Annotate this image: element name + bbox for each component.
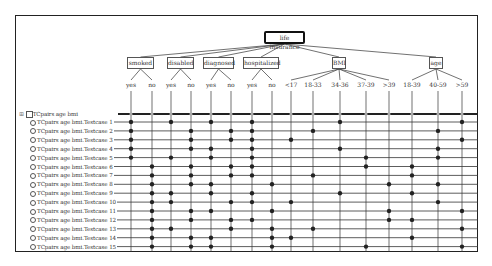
header-class-marker[interactable]: [436, 112, 439, 115]
test-case-mark[interactable]: [250, 218, 254, 222]
test-case-row[interactable]: TCpairs age bmi.Testcase 8: [30, 180, 114, 188]
test-case-mark[interactable]: [129, 120, 133, 124]
header-class-marker[interactable]: [169, 112, 172, 115]
class-age-2[interactable]: >59: [452, 81, 472, 89]
test-case-mark[interactable]: [250, 164, 254, 168]
test-case-mark[interactable]: [289, 200, 293, 204]
header-class-marker[interactable]: [387, 112, 390, 115]
class-bmi-1[interactable]: 18-33: [303, 81, 323, 89]
test-case-mark[interactable]: [311, 129, 315, 133]
header-class-marker[interactable]: [270, 112, 273, 115]
test-case-mark[interactable]: [289, 236, 293, 240]
radio-circle-icon[interactable]: [30, 217, 36, 223]
test-case-mark[interactable]: [229, 138, 233, 142]
test-case-mark[interactable]: [436, 129, 440, 133]
test-case-row[interactable]: TCpairs age bmi.Testcase 2: [30, 127, 114, 135]
header-class-marker[interactable]: [250, 112, 253, 115]
test-case-mark[interactable]: [169, 191, 173, 195]
test-case-mark[interactable]: [250, 155, 254, 159]
class-hospitalized-0[interactable]: yes: [242, 81, 262, 89]
test-case-mark[interactable]: [436, 155, 440, 159]
test-case-mark[interactable]: [311, 173, 315, 177]
test-case-mark[interactable]: [150, 182, 154, 186]
test-case-mark[interactable]: [189, 147, 193, 151]
test-case-mark[interactable]: [209, 244, 213, 248]
test-case-mark[interactable]: [229, 227, 233, 231]
radio-circle-icon[interactable]: [30, 244, 36, 250]
test-case-mark[interactable]: [364, 244, 368, 248]
classification-disabled[interactable]: disabled: [167, 57, 194, 69]
classification-diagnosed[interactable]: diagnosed: [203, 57, 234, 69]
test-case-mark[interactable]: [229, 200, 233, 204]
class-bmi-0[interactable]: <17: [281, 81, 301, 89]
class-hospitalized-1[interactable]: no: [262, 81, 282, 89]
test-case-row[interactable]: TCpairs age bmi.Testcase 13: [30, 225, 117, 233]
test-case-mark[interactable]: [150, 191, 154, 195]
class-diagnosed-0[interactable]: yes: [201, 81, 221, 89]
test-case-mark[interactable]: [169, 120, 173, 124]
test-case-row[interactable]: TCpairs age bmi.Testcase 7: [30, 171, 114, 179]
class-diagnosed-1[interactable]: no: [221, 81, 241, 89]
test-case-row[interactable]: TCpairs age bmi.Testcase 4: [30, 145, 114, 153]
test-case-mark[interactable]: [150, 209, 154, 213]
header-class-marker[interactable]: [229, 112, 232, 115]
test-case-mark[interactable]: [410, 191, 414, 195]
header-class-marker[interactable]: [364, 112, 367, 115]
test-case-mark[interactable]: [129, 138, 133, 142]
radio-circle-icon[interactable]: [30, 200, 36, 206]
radio-circle-icon[interactable]: [30, 226, 36, 232]
class-age-1[interactable]: 40-59: [428, 81, 448, 89]
test-case-row[interactable]: TCpairs age bmi.Testcase 9: [30, 189, 114, 197]
test-case-mark[interactable]: [189, 164, 193, 168]
test-case-mark[interactable]: [387, 218, 391, 222]
test-case-mark[interactable]: [270, 182, 274, 186]
class-smoked-0[interactable]: yes: [121, 81, 141, 89]
test-case-mark[interactable]: [460, 227, 464, 231]
test-case-mark[interactable]: [460, 138, 464, 142]
test-case-mark[interactable]: [289, 138, 293, 142]
test-case-mark[interactable]: [436, 182, 440, 186]
header-class-marker[interactable]: [311, 112, 314, 115]
test-case-mark[interactable]: [169, 200, 173, 204]
test-case-mark[interactable]: [189, 218, 193, 222]
radio-circle-icon[interactable]: [30, 128, 36, 134]
test-case-mark[interactable]: [189, 209, 193, 213]
header-class-marker[interactable]: [410, 112, 413, 115]
test-case-mark[interactable]: [338, 120, 342, 124]
radio-circle-icon[interactable]: [30, 191, 36, 197]
header-class-marker[interactable]: [338, 112, 341, 115]
test-case-mark[interactable]: [209, 147, 213, 151]
test-case-mark[interactable]: [410, 173, 414, 177]
radio-circle-icon[interactable]: [30, 164, 36, 170]
test-case-mark[interactable]: [189, 173, 193, 177]
test-case-mark[interactable]: [436, 200, 440, 204]
classification-age[interactable]: age: [429, 57, 443, 69]
radio-circle-icon[interactable]: [30, 146, 36, 152]
test-case-mark[interactable]: [460, 120, 464, 124]
test-case-mark[interactable]: [209, 209, 213, 213]
test-case-mark[interactable]: [209, 182, 213, 186]
test-case-row[interactable]: TCpairs age bmi.Testcase 12: [30, 216, 117, 224]
test-case-mark[interactable]: [410, 164, 414, 168]
test-case-mark[interactable]: [364, 155, 368, 159]
test-case-mark[interactable]: [387, 209, 391, 213]
test-case-mark[interactable]: [387, 182, 391, 186]
test-case-mark[interactable]: [410, 236, 414, 240]
test-case-mark[interactable]: [436, 147, 440, 151]
radio-circle-icon[interactable]: [30, 182, 36, 188]
header-class-marker[interactable]: [129, 112, 132, 115]
test-case-mark[interactable]: [209, 155, 213, 159]
test-case-mark[interactable]: [229, 173, 233, 177]
class-age-0[interactable]: 18-39: [402, 81, 422, 89]
header-class-marker[interactable]: [460, 112, 463, 115]
test-case-mark[interactable]: [189, 129, 193, 133]
radio-circle-icon[interactable]: [30, 120, 36, 126]
test-case-mark[interactable]: [209, 236, 213, 240]
test-case-mark[interactable]: [189, 182, 193, 186]
test-case-mark[interactable]: [150, 244, 154, 248]
test-case-mark[interactable]: [150, 236, 154, 240]
test-case-mark[interactable]: [169, 155, 173, 159]
test-case-mark[interactable]: [129, 147, 133, 151]
radio-circle-icon[interactable]: [30, 235, 36, 241]
class-bmi-3[interactable]: 37-39: [356, 81, 376, 89]
